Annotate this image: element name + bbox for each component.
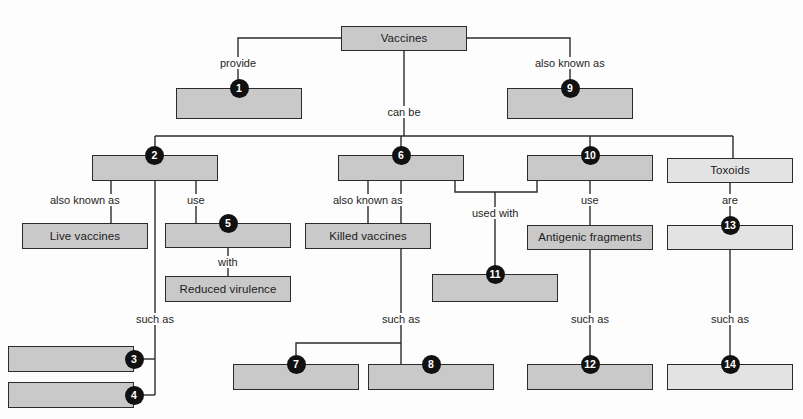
concept-box-label: Live vaccines	[50, 230, 120, 243]
connector-e_n6_used	[455, 181, 495, 192]
link-label-l_with: with	[216, 256, 240, 268]
link-label-l_suchas_10: such as	[569, 313, 611, 325]
blank-number-badge-12: 12	[581, 355, 600, 374]
link-label-l_akas_top: also known as	[533, 57, 607, 69]
blank-number-badge-1: 1	[230, 79, 249, 98]
blank-number-badge-7: 7	[287, 355, 306, 374]
concept-box-root[interactable]: Vaccines	[341, 26, 467, 51]
link-label-l_aka_2: also known as	[48, 194, 122, 206]
blank-number-badge-14: 14	[721, 355, 740, 374]
blank-number-badge-8: 8	[422, 355, 441, 374]
blank-number-badge-10: 10	[581, 146, 600, 165]
link-label-l_provide: provide	[218, 57, 258, 69]
concept-box-reduced[interactable]: Reduced virulence	[165, 276, 291, 302]
concept-map-canvas: Vaccines192610ToxoidsLive vaccines5Kille…	[0, 0, 803, 419]
concept-box-n3[interactable]	[8, 346, 134, 372]
concept-box-n4[interactable]	[8, 382, 134, 408]
concept-box-killed[interactable]: Killed vaccines	[305, 223, 431, 249]
blank-number-badge-3: 3	[125, 350, 144, 369]
blank-number-badge-13: 13	[721, 216, 740, 235]
link-label-l_usedwith: used with	[470, 207, 520, 219]
link-label-l_canbe: can be	[386, 106, 423, 118]
link-label-l_suchas_2: such as	[134, 313, 176, 325]
concept-box-toxoids[interactable]: Toxoids	[667, 158, 793, 183]
concept-box-label: Antigenic fragments	[538, 231, 642, 244]
blank-number-badge-2: 2	[145, 146, 164, 165]
concept-box-antigenic[interactable]: Antigenic fragments	[527, 225, 653, 250]
link-label-l_use_10: use	[579, 194, 601, 206]
link-label-l_suchas_6: such as	[380, 313, 422, 325]
blank-number-badge-11: 11	[486, 265, 505, 284]
concept-box-label: Killed vaccines	[329, 230, 407, 243]
blank-number-badge-4: 4	[125, 386, 144, 405]
link-label-l_suchas_13: such as	[709, 313, 751, 325]
blank-number-badge-5: 5	[219, 214, 238, 233]
concept-box-label: Vaccines	[381, 32, 428, 45]
concept-box-live[interactable]: Live vaccines	[22, 223, 148, 249]
connector-e_n10_used	[495, 181, 537, 192]
link-label-l_are: are	[720, 194, 740, 206]
concept-box-label: Toxoids	[710, 164, 750, 177]
link-label-l_use_2: use	[185, 194, 207, 206]
link-label-l_aka_6: also known as	[331, 194, 405, 206]
blank-number-badge-6: 6	[392, 146, 411, 165]
concept-box-label: Reduced virulence	[180, 283, 277, 296]
blank-number-badge-9: 9	[561, 79, 580, 98]
